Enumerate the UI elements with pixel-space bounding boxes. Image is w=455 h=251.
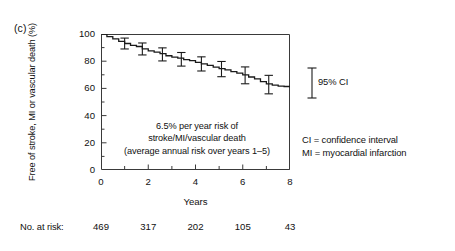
x-tick-2: 2 [136, 176, 160, 187]
ci-reference-bar-icon [305, 66, 319, 100]
ci-legend-label: 95% CI [318, 76, 348, 87]
abbrev-mi: MI = myocardial infarction [302, 146, 406, 159]
x-tick-4: 4 [184, 176, 208, 187]
y-tick-100: 100 [69, 28, 95, 39]
abbreviation-key: CI = confidence interval MI = myocardial… [302, 133, 406, 160]
x-tick-8: 8 [278, 176, 302, 187]
annotation-line-2: stroke/MI/vascular death [106, 132, 288, 144]
annotation-line-3: (average annual risk over years 1–5) [106, 145, 288, 157]
x-tick-6: 6 [231, 176, 255, 187]
y-tick-0: 0 [69, 164, 95, 175]
y-axis-label: Free of stroke, MI or vascular death (%) [27, 7, 37, 197]
at-risk-value-8: 43 [275, 221, 305, 232]
y-tick-80: 80 [69, 55, 95, 66]
plot-annotation: 6.5% per year risk of stroke/MI/vascular… [106, 120, 288, 157]
abbrev-ci: CI = confidence interval [302, 133, 406, 146]
at-risk-value-4: 202 [181, 221, 211, 232]
figure-panel-c: (c) Free of stroke, MI or vascular death… [0, 0, 455, 251]
y-tick-40: 40 [69, 110, 95, 121]
y-tick-60: 60 [69, 82, 95, 93]
at-risk-values: 46931720210543 [101, 221, 290, 235]
annotation-line-1: 6.5% per year risk of [106, 120, 288, 132]
panel-label: (c) [14, 22, 27, 34]
x-tick-0: 0 [89, 176, 113, 187]
at-risk-value-0: 469 [86, 221, 116, 232]
y-tick-20: 20 [69, 137, 95, 148]
at-risk-value-2: 317 [133, 221, 163, 232]
at-risk-value-6: 105 [228, 221, 258, 232]
at-risk-label: No. at risk: [20, 221, 64, 232]
x-axis-label: Years [101, 196, 290, 207]
